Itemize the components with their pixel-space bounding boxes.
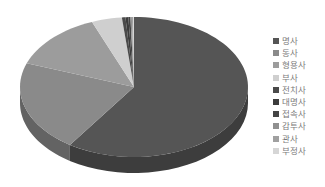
- legend-label: 형용사: [282, 59, 306, 71]
- legend-swatch: [273, 50, 279, 56]
- legend-item-noun: 명사: [273, 35, 325, 47]
- legend-item-adverb: 부사: [273, 72, 325, 84]
- legend-label: 동사: [282, 47, 298, 59]
- legend-swatch: [273, 87, 279, 93]
- legend-label: 전치사: [282, 84, 306, 96]
- legend-item-article: 관사: [273, 133, 325, 145]
- legend-item-infinitive: 부정사: [273, 145, 325, 157]
- legend-label: 접속사: [282, 108, 306, 120]
- legend-item-preposition: 전치사: [273, 84, 325, 96]
- legend-swatch: [273, 123, 279, 129]
- legend-item-conjunction: 접속사: [273, 108, 325, 120]
- legend-swatch: [273, 136, 279, 142]
- legend-swatch: [273, 148, 279, 154]
- pie-chart: [0, 0, 265, 187]
- legend-item-verb: 동사: [273, 47, 325, 59]
- legend-item-pronoun: 대명사: [273, 96, 325, 108]
- legend: 명사 동사 형용사 부사 전치사 대명사 접속사 감투사 관사 부정사: [273, 35, 325, 157]
- legend-item-adjective: 형용사: [273, 59, 325, 71]
- legend-label: 명사: [282, 35, 298, 47]
- legend-label: 감투사: [282, 120, 306, 132]
- legend-swatch: [273, 62, 279, 68]
- legend-swatch: [273, 38, 279, 44]
- legend-swatch: [273, 111, 279, 117]
- legend-swatch: [273, 99, 279, 105]
- legend-label: 관사: [282, 133, 298, 145]
- legend-label: 부사: [282, 72, 298, 84]
- legend-label: 부정사: [282, 145, 306, 157]
- pie-slices: [20, 17, 248, 157]
- legend-swatch: [273, 75, 279, 81]
- legend-item-interjection: 감투사: [273, 120, 325, 132]
- legend-label: 대명사: [282, 96, 306, 108]
